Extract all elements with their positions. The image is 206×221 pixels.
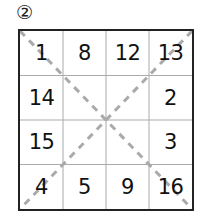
grid-cell bbox=[106, 76, 149, 121]
grid-cell: 2 bbox=[149, 76, 192, 121]
grid-cell: 4 bbox=[20, 165, 63, 210]
problem-number-label: ② bbox=[16, 1, 33, 23]
grid-cell bbox=[106, 120, 149, 165]
grid-cell bbox=[63, 120, 106, 165]
grid-cell: 12 bbox=[106, 31, 149, 76]
grid-cell: 15 bbox=[20, 120, 63, 165]
grid-cell: 13 bbox=[149, 31, 192, 76]
magic-square-grid: 18121314215345916 bbox=[18, 29, 194, 211]
grid-cell: 8 bbox=[63, 31, 106, 76]
grid-cell bbox=[63, 76, 106, 121]
grid-cell: 16 bbox=[149, 165, 192, 210]
grid-cell: 3 bbox=[149, 120, 192, 165]
grid-cell: 1 bbox=[20, 31, 63, 76]
grid-cell: 5 bbox=[63, 165, 106, 210]
grid-cell: 14 bbox=[20, 76, 63, 121]
grid-cell: 9 bbox=[106, 165, 149, 210]
